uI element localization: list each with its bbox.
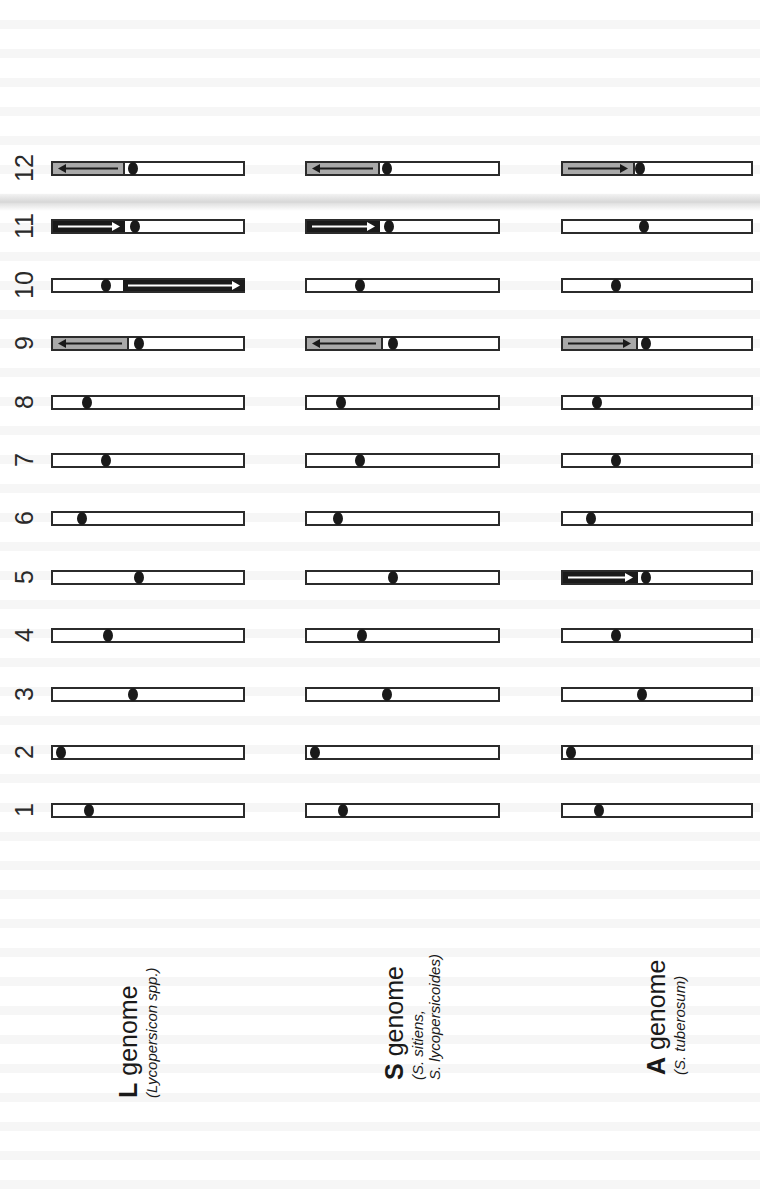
- centromere-dot-icon: [592, 396, 602, 409]
- centromere-dot-icon: [388, 337, 398, 350]
- chromosome-bar-A-3: [561, 687, 753, 702]
- centromere-dot-icon: [382, 162, 392, 175]
- chromosome-bar-A-6: [561, 511, 753, 526]
- chromosome-bar-S-4: [305, 628, 500, 643]
- centromere-dot-icon: [382, 688, 392, 701]
- centromere-dot-icon: [594, 804, 604, 817]
- centromere-dot-icon: [611, 454, 621, 467]
- centromere-dot-icon: [384, 220, 394, 233]
- genome-subtitle-line-2: S. lycopersicoides): [426, 954, 443, 1080]
- inverted-segment: [563, 338, 638, 349]
- chromosome-number-label: 12: [6, 150, 42, 186]
- chromosome-bar-A-4: [561, 628, 753, 643]
- centromere-dot-icon: [611, 629, 621, 642]
- chromosome-bar-L-10: [51, 278, 245, 293]
- centromere-dot-icon: [103, 629, 113, 642]
- chromosome-bar-S-10: [305, 278, 500, 293]
- inverted-segment: [563, 163, 635, 174]
- chromosome-number-label: 7: [6, 442, 42, 478]
- centromere-dot-icon: [641, 571, 651, 584]
- centromere-dot-icon: [641, 337, 651, 350]
- chromosome-bar-L-4: [51, 628, 245, 643]
- centromere-dot-icon: [84, 804, 94, 817]
- genome-label-S: S genome (S. sitiens, S. lycopersicoides…: [380, 954, 443, 1080]
- chromosome-number-label: 5: [6, 559, 42, 595]
- inverted-segment: [307, 338, 383, 349]
- centromere-dot-icon: [82, 396, 92, 409]
- genome-word: genome: [380, 966, 408, 1063]
- chromosome-bar-A-10: [561, 278, 753, 293]
- chromosome-bar-L-5: [51, 570, 245, 585]
- chromosome-bar-L-8: [51, 395, 245, 410]
- chromosome-number-label: 4: [6, 617, 42, 653]
- chromosome-bar-L-3: [51, 687, 245, 702]
- arrow-right-icon: [563, 338, 636, 349]
- chromosome-bar-L-9: [51, 336, 245, 351]
- inverted-segment: [53, 163, 125, 174]
- centromere-dot-icon: [130, 220, 140, 233]
- chromosome-number-label: 3: [6, 676, 42, 712]
- centromere-dot-icon: [333, 512, 343, 525]
- arrow-right-icon: [123, 280, 245, 291]
- chromosome-bar-S-1: [305, 803, 500, 818]
- chromosome-bar-A-1: [561, 803, 753, 818]
- centromere-dot-icon: [338, 804, 348, 817]
- genome-word: genome: [642, 960, 670, 1057]
- centromere-dot-icon: [336, 396, 346, 409]
- inverted-segment: [121, 280, 245, 291]
- centromere-dot-icon: [639, 220, 649, 233]
- centromere-dot-icon: [611, 279, 621, 292]
- genome-label-L: L genome (Lycopersicon spp.): [114, 967, 160, 1098]
- inverted-segment: [53, 338, 129, 349]
- chromosome-bar-A-8: [561, 395, 753, 410]
- centromere-dot-icon: [635, 162, 645, 175]
- centromere-dot-icon: [101, 454, 111, 467]
- chromosome-bar-S-12: [305, 161, 500, 176]
- centromere-dot-icon: [355, 454, 365, 467]
- centromere-dot-icon: [101, 279, 111, 292]
- arrow-left-icon: [307, 338, 381, 349]
- chromosome-bar-A-2: [561, 745, 753, 760]
- chromosome-number-label: 11: [6, 208, 42, 244]
- chromosome-number-label: 10: [6, 267, 42, 303]
- arrow-left-icon: [53, 338, 127, 349]
- chromosome-number-label: 1: [6, 792, 42, 828]
- centromere-dot-icon: [637, 688, 647, 701]
- chromosome-bar-S-7: [305, 453, 500, 468]
- genome-subtitle: (Lycopersicon spp.): [143, 967, 160, 1098]
- chromosome-bar-L-12: [51, 161, 245, 176]
- centromere-dot-icon: [566, 746, 576, 759]
- genome-letter: A: [642, 1057, 670, 1075]
- chromosome-bar-S-11: [305, 219, 500, 234]
- chromosome-bar-S-2: [305, 745, 500, 760]
- chromosome-bar-L-1: [51, 803, 245, 818]
- chromosome-bar-S-9: [305, 336, 500, 351]
- centromere-dot-icon: [388, 571, 398, 584]
- chromosome-number-label: 8: [6, 384, 42, 420]
- chromosome-number-label: 9: [6, 325, 42, 361]
- chromosome-bar-A-12: [561, 161, 753, 176]
- centromere-dot-icon: [128, 162, 138, 175]
- chromosome-bar-A-7: [561, 453, 753, 468]
- centromere-dot-icon: [310, 746, 320, 759]
- centromere-dot-icon: [77, 512, 87, 525]
- chromosome-bar-L-11: [51, 219, 245, 234]
- chromosome-bar-S-6: [305, 511, 500, 526]
- centromere-dot-icon: [586, 512, 596, 525]
- chromosome-bar-A-11: [561, 219, 753, 234]
- centromere-dot-icon: [355, 279, 365, 292]
- inverted-segment: [307, 163, 380, 174]
- arrow-right-icon: [53, 221, 125, 232]
- centromere-dot-icon: [56, 746, 66, 759]
- arrow-right-icon: [563, 572, 638, 583]
- centromere-dot-icon: [134, 337, 144, 350]
- genome-label-A: A genome (S. tuberosum): [642, 960, 688, 1075]
- arrow-right-icon: [307, 221, 380, 232]
- chromosome-bar-L-7: [51, 453, 245, 468]
- inverted-segment: [563, 572, 638, 583]
- genome-letter: S: [380, 1063, 408, 1080]
- arrow-left-icon: [307, 163, 378, 174]
- centromere-dot-icon: [134, 571, 144, 584]
- chromosome-bar-S-3: [305, 687, 500, 702]
- scan-band: [0, 193, 760, 211]
